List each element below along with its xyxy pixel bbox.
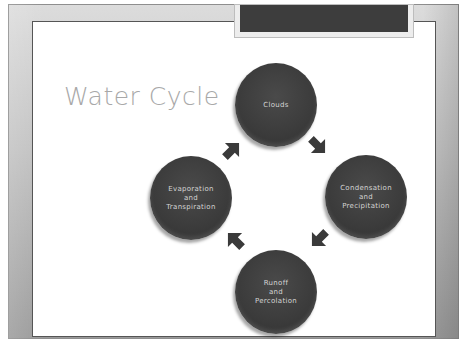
node-condensation-precipitation: Condensation and Precipitation <box>325 155 407 239</box>
node-label-clouds: Clouds <box>263 101 288 110</box>
node-runoff-percolation: Runoff and Percolation <box>235 250 317 334</box>
slide-title: Water Cycle <box>64 82 220 111</box>
header-tab-fill <box>240 5 408 32</box>
node-label-condensation: Condensation and Precipitation <box>340 184 392 211</box>
node-clouds: Clouds <box>235 63 317 147</box>
node-evaporation-transpiration: Evaporation and Transpiration <box>150 156 232 240</box>
node-label-runoff: Runoff and Percolation <box>255 279 297 306</box>
slide-canvas: Water Cycle Clouds Condensation and Prec… <box>0 0 467 364</box>
node-label-evaporation: Evaporation and Transpiration <box>166 185 215 212</box>
header-tab <box>234 4 414 38</box>
